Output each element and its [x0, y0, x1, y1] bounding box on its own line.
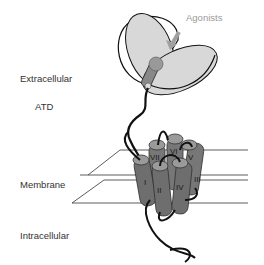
intracellular-label: Intracellular — [20, 230, 69, 241]
svg-text:VI: VI — [170, 147, 178, 156]
extracellular-label: Extracellular — [20, 73, 72, 84]
svg-text:III: III — [194, 175, 201, 184]
linker-chain — [128, 88, 148, 160]
svg-text:VII: VII — [150, 153, 160, 162]
svg-text:II: II — [157, 186, 161, 195]
svg-text:I: I — [144, 178, 146, 187]
membrane-label: Membrane — [20, 179, 65, 190]
svg-text:IV: IV — [176, 183, 184, 192]
agonists-label: Agonists — [186, 12, 222, 23]
svg-text:V: V — [188, 153, 194, 162]
atd-label: ATD — [35, 101, 53, 112]
receptor-diagram: I II III IV V VI VII — [0, 0, 264, 265]
